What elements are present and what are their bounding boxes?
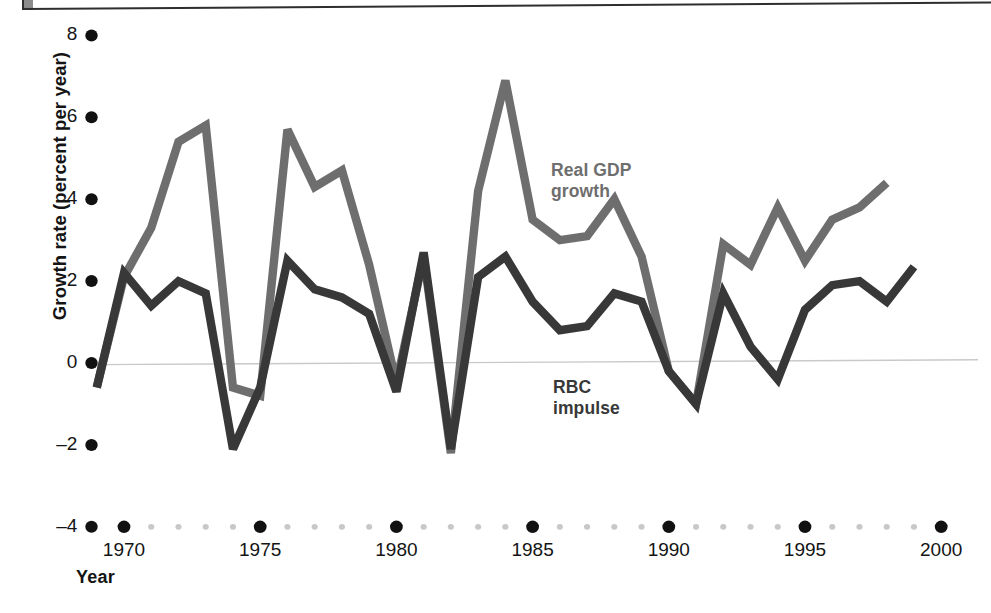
series-label-real-gdp-growth: Real GDP growth <box>551 160 632 201</box>
line-chart-plot <box>0 0 991 613</box>
x-tick-label: 1985 <box>488 539 578 561</box>
x-tick-label: 2000 <box>896 539 986 561</box>
x-tick-label: 1980 <box>351 539 441 561</box>
y-tick-label: –2 <box>31 433 77 455</box>
y-axis-title: Growth rate (percent per year) <box>49 0 71 396</box>
data-series-lines <box>97 80 914 453</box>
y-tick-label: –4 <box>31 515 77 537</box>
x-axis-tick-marks <box>118 521 948 533</box>
x-tick-label: 1990 <box>624 539 714 561</box>
chart-figure: 86420–2–4 1970197519801985199019952000 G… <box>0 0 991 613</box>
x-axis-title: Year <box>76 567 115 588</box>
series-label-rbc-impulse: RBC impulse <box>553 377 620 418</box>
x-tick-label: 1975 <box>215 539 305 561</box>
x-tick-label: 1970 <box>79 539 169 561</box>
x-tick-label: 1995 <box>760 539 850 561</box>
y-axis-tick-marks <box>85 29 97 532</box>
